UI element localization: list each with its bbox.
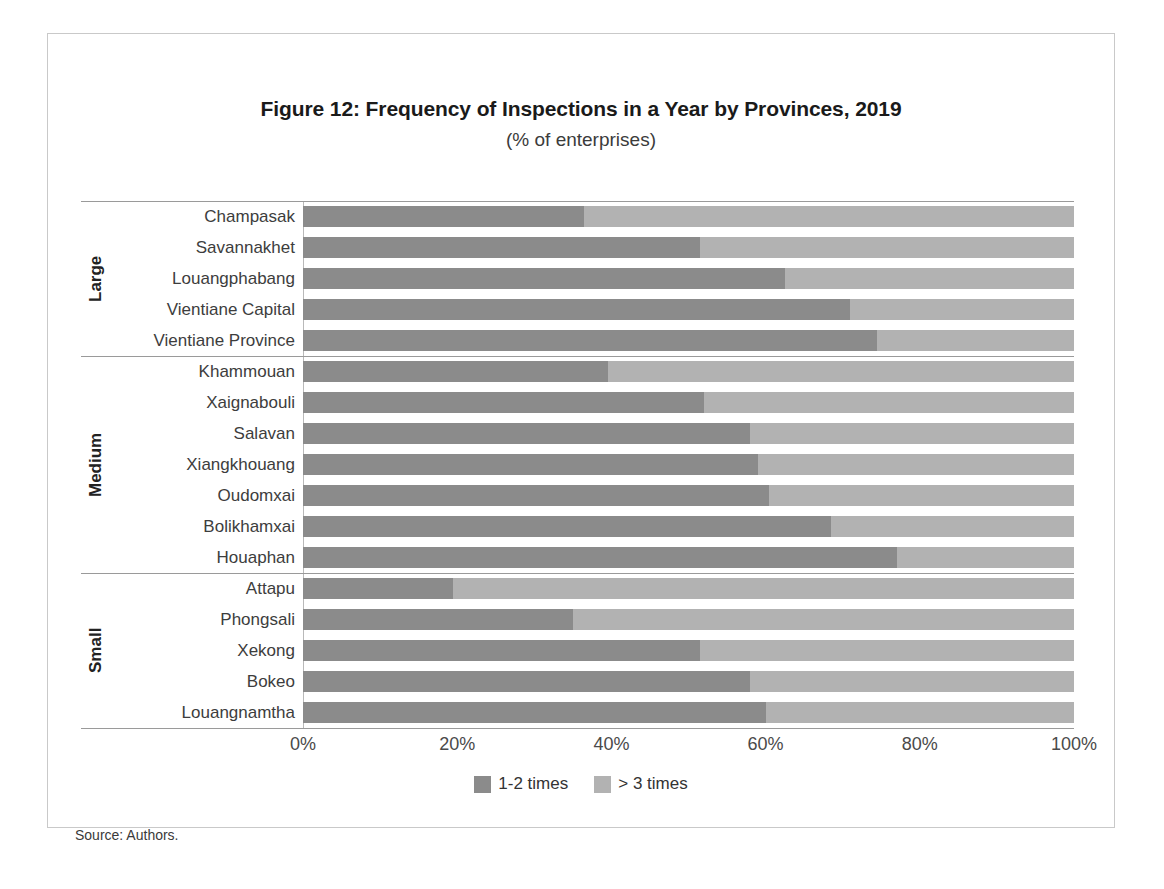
bar-segment: [303, 392, 704, 413]
bar-segment: [303, 454, 758, 475]
category-label: Champasak: [204, 201, 295, 232]
category-label: Houaphan: [217, 542, 295, 573]
bar-segment: [303, 206, 584, 227]
group-divider: [81, 573, 1074, 574]
bar-segment: [303, 361, 608, 382]
legend-swatch-icon: [594, 776, 611, 793]
category-label: Vientiane Capital: [167, 294, 295, 325]
bar-segment: [303, 702, 766, 723]
x-tick-label: 60%: [748, 734, 784, 755]
bar-segment: [750, 423, 1074, 444]
bar-segment: [831, 516, 1074, 537]
category-label: Louangphabang: [172, 263, 295, 294]
category-label: Oudomxai: [218, 480, 295, 511]
group-divider: [81, 728, 1074, 729]
bar-row: [303, 547, 1074, 568]
bar-segment: [303, 547, 897, 568]
group-divider: [81, 356, 1074, 357]
bar-segment: [303, 516, 831, 537]
group-label: Large: [81, 201, 111, 356]
category-label-column: ChampasakSavannakhetLouangphabangVientia…: [81, 201, 303, 728]
bar-segment: [453, 578, 1074, 599]
bar-row: [303, 671, 1074, 692]
bar-segment: [758, 454, 1074, 475]
legend-swatch-icon: [474, 776, 491, 793]
bar-segment: [303, 485, 769, 506]
bar-row: [303, 237, 1074, 258]
bar-row: [303, 454, 1074, 475]
bar-segment: [573, 609, 1074, 630]
bar-segment: [700, 237, 1074, 258]
category-label: Attapu: [246, 573, 295, 604]
legend-item[interactable]: 1-2 times: [474, 774, 568, 794]
bar-row: [303, 361, 1074, 382]
bar-segment: [897, 547, 1074, 568]
bar-row: [303, 268, 1074, 289]
chart-legend: 1-2 times> 3 times: [48, 774, 1114, 794]
bar-segment: [766, 702, 1074, 723]
x-tick-label: 20%: [439, 734, 475, 755]
category-label: Louangnamtha: [182, 697, 295, 728]
bar-segment: [303, 299, 850, 320]
plot-area: [303, 201, 1074, 728]
bar-row: [303, 516, 1074, 537]
bar-row: [303, 702, 1074, 723]
bar-row: [303, 423, 1074, 444]
x-axis-tick-labels: 0%20%40%60%80%100%: [303, 734, 1074, 762]
bar-segment: [769, 485, 1074, 506]
group-divider: [81, 201, 1074, 202]
category-label: Vientiane Province: [154, 325, 295, 356]
x-tick-label: 40%: [593, 734, 629, 755]
category-label: Savannakhet: [196, 232, 295, 263]
figure-frame: Figure 12: Frequency of Inspections in a…: [47, 33, 1115, 828]
bar-segment: [608, 361, 1074, 382]
x-tick-label: 100%: [1051, 734, 1097, 755]
bar-row: [303, 640, 1074, 661]
bar-segment: [303, 671, 750, 692]
bar-row: [303, 299, 1074, 320]
bar-segment: [303, 268, 785, 289]
category-label: Bokeo: [247, 666, 295, 697]
bar-segment: [303, 237, 700, 258]
bar-segment: [750, 671, 1074, 692]
figure-subtitle: (% of enterprises): [48, 129, 1114, 151]
figure-title: Figure 12: Frequency of Inspections in a…: [48, 97, 1114, 121]
bar-segment: [303, 330, 877, 351]
category-label: Khammouan: [199, 356, 295, 387]
bar-row: [303, 330, 1074, 351]
category-label: Xekong: [237, 635, 295, 666]
category-label: Bolikhamxai: [203, 511, 295, 542]
bar-segment: [303, 640, 700, 661]
group-label: Medium: [81, 356, 111, 573]
category-label: Salavan: [234, 418, 295, 449]
bar-row: [303, 392, 1074, 413]
bar-segment: [700, 640, 1074, 661]
bar-segment: [303, 423, 750, 444]
bar-row: [303, 578, 1074, 599]
x-tick-label: 80%: [902, 734, 938, 755]
bar-segment: [584, 206, 1074, 227]
category-label: Phongsali: [220, 604, 295, 635]
source-note: Source: Authors.: [75, 827, 179, 843]
category-label: Xaignabouli: [206, 387, 295, 418]
bar-row: [303, 206, 1074, 227]
category-label: Xiangkhouang: [186, 449, 295, 480]
legend-label: 1-2 times: [498, 774, 568, 794]
figure-page: Figure 12: Frequency of Inspections in a…: [0, 0, 1164, 889]
legend-label: > 3 times: [618, 774, 687, 794]
bar-segment: [850, 299, 1074, 320]
bar-segment: [877, 330, 1074, 351]
bar-segment: [303, 578, 453, 599]
x-tick-label: 0%: [290, 734, 316, 755]
legend-item[interactable]: > 3 times: [594, 774, 687, 794]
bar-segment: [785, 268, 1074, 289]
bar-segment: [704, 392, 1074, 413]
bar-row: [303, 609, 1074, 630]
bar-segment: [303, 609, 573, 630]
group-label: Small: [81, 573, 111, 728]
bar-row: [303, 485, 1074, 506]
